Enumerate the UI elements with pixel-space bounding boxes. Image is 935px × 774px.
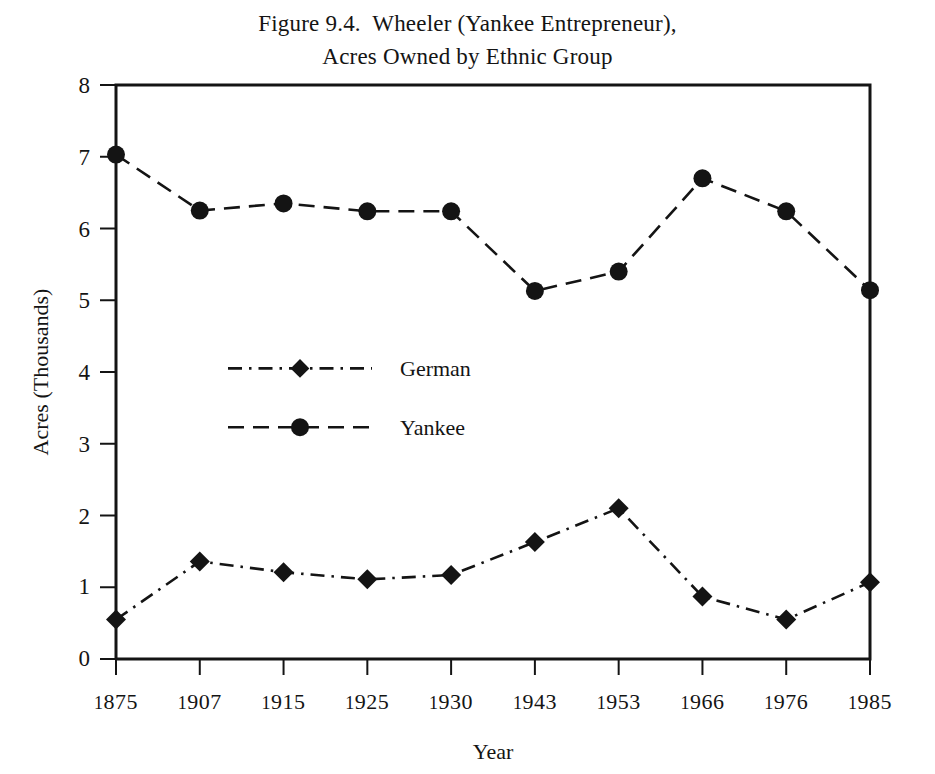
y-tick-label: 4 xyxy=(79,360,91,385)
legend-label-german: German xyxy=(400,356,471,381)
data-point-yankee-1907 xyxy=(191,202,209,220)
x-tick-label: 1907 xyxy=(178,689,222,714)
y-tick-label: 8 xyxy=(79,73,91,98)
series-line-yankee xyxy=(116,155,870,291)
data-point-german-1907 xyxy=(190,551,210,571)
plot-frame xyxy=(116,85,870,659)
x-tick-label: 1943 xyxy=(513,689,557,714)
x-tick-label: 1985 xyxy=(848,689,892,714)
data-point-german-1976 xyxy=(776,610,796,630)
legend-layer: GermanYankee xyxy=(228,356,471,440)
x-tick-label: 1915 xyxy=(262,689,306,714)
x-tick-label: 1930 xyxy=(429,689,473,714)
data-point-yankee-1985 xyxy=(861,281,879,299)
x-tick-label: 1875 xyxy=(94,689,138,714)
x-tick-label: 1953 xyxy=(597,689,641,714)
data-point-yankee-1943 xyxy=(526,282,544,300)
x-axis-title: Year xyxy=(473,739,514,764)
circle-icon xyxy=(291,418,309,436)
y-tick-label: 6 xyxy=(79,217,91,242)
series-german xyxy=(106,498,880,629)
data-point-german-1925 xyxy=(357,569,377,589)
y-tick-label: 2 xyxy=(79,504,91,529)
data-point-yankee-1875 xyxy=(107,146,125,164)
series-line-german xyxy=(116,508,870,619)
data-point-german-1930 xyxy=(441,565,461,585)
y-tick-label: 0 xyxy=(79,646,91,671)
axes-layer: 0123456781875190719151925193019431953196… xyxy=(79,73,893,714)
series-layer xyxy=(106,146,880,630)
data-point-yankee-1925 xyxy=(358,202,376,220)
y-tick-label: 5 xyxy=(79,288,91,313)
figure-title-line-2: Acres Owned by Ethnic Group xyxy=(0,41,935,74)
diamond-icon xyxy=(291,359,310,378)
chart-plot: 0123456781875190719151925193019431953196… xyxy=(0,0,935,774)
figure-title: Figure 9.4. Wheeler (Yankee Entrepreneur… xyxy=(0,8,935,73)
data-point-german-1953 xyxy=(609,498,629,518)
data-point-yankee-1976 xyxy=(777,202,795,220)
data-point-yankee-1953 xyxy=(610,263,628,281)
x-tick-label: 1966 xyxy=(680,689,724,714)
y-tick-label: 7 xyxy=(79,145,91,170)
figure-container: Figure 9.4. Wheeler (Yankee Entrepreneur… xyxy=(0,0,935,774)
legend-entry-yankee: Yankee xyxy=(228,415,465,440)
x-tick-label: 1976 xyxy=(764,689,808,714)
y-tick-label: 1 xyxy=(79,574,91,599)
data-point-yankee-1966 xyxy=(693,169,711,187)
legend-label-yankee: Yankee xyxy=(400,415,465,440)
data-point-german-1943 xyxy=(525,532,545,552)
x-tick-label: 1925 xyxy=(345,689,389,714)
data-point-yankee-1930 xyxy=(442,202,460,220)
figure-title-line-1: Figure 9.4. Wheeler (Yankee Entrepreneur… xyxy=(0,8,935,41)
y-axis-title: Acres (Thousands) xyxy=(28,289,53,456)
y-tick-label: 3 xyxy=(79,432,91,457)
legend-entry-german: German xyxy=(228,356,471,381)
data-point-yankee-1915 xyxy=(275,194,293,212)
series-yankee xyxy=(107,146,879,300)
data-point-german-1915 xyxy=(274,562,294,582)
data-point-german-1875 xyxy=(106,610,126,630)
data-point-german-1985 xyxy=(860,572,880,592)
